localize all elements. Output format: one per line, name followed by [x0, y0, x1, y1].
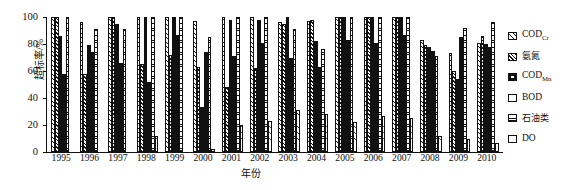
legend-label: DO: [522, 134, 536, 144]
legend-item: CODCr: [508, 26, 573, 47]
bar-chart: 超标率/% 020406080100 199519961997199819992…: [0, 0, 573, 190]
codcr-swatch: [508, 32, 517, 40]
y-axis-ticks: 020406080100: [0, 0, 46, 190]
y-tick-label: 80: [12, 39, 38, 50]
bar: [66, 17, 70, 152]
y-tick-label: 20: [12, 120, 38, 131]
x-tick-label: 1997: [104, 153, 132, 164]
bar-group: [474, 17, 502, 152]
x-axis-ticks: 1995199619971998199920002001200220032004…: [46, 153, 502, 164]
bar: [491, 22, 495, 152]
bar-group: [247, 17, 275, 152]
do-swatch: [508, 135, 517, 143]
bar-group: [389, 17, 417, 152]
bar: [382, 116, 386, 152]
bar-groups: [47, 17, 503, 152]
x-tick-label: 2002: [246, 153, 274, 164]
legend-item: BOD: [508, 88, 573, 109]
bar-group: [303, 17, 331, 152]
bar: [155, 136, 159, 152]
legend-label-main: COD: [522, 70, 542, 80]
legend-label: 氨氮: [522, 52, 540, 61]
legend-item: DO: [508, 129, 573, 150]
x-tick-label: 2000: [189, 153, 217, 164]
legend-item: CODMn: [508, 67, 573, 88]
bar: [179, 17, 183, 152]
bar: [240, 125, 244, 152]
x-tick-label: 1995: [47, 153, 75, 164]
x-tick-label: 2005: [331, 153, 359, 164]
bar: [438, 136, 442, 152]
x-tick-label: 2001: [217, 153, 245, 164]
bar-group: [133, 17, 161, 152]
bar: [495, 143, 499, 152]
x-tick-label: 2009: [444, 153, 472, 164]
codmn-swatch: [508, 73, 517, 81]
y-tick-label: 60: [12, 66, 38, 77]
bod-swatch: [508, 94, 517, 102]
bar: [353, 122, 357, 152]
legend-label-sub: Mn: [542, 75, 551, 82]
bar-group: [417, 17, 445, 152]
bar-group: [275, 17, 303, 152]
bar-group: [218, 17, 246, 152]
bar-group: [332, 17, 360, 152]
x-tick-label: 1996: [75, 153, 103, 164]
bar-group: [105, 17, 133, 152]
bar: [467, 139, 471, 153]
x-tick-label: 2006: [359, 153, 387, 164]
legend: CODCr氨氮CODMnBOD石油类DO: [508, 26, 573, 149]
x-tick-label: 2007: [388, 153, 416, 164]
legend-label: BOD: [522, 93, 542, 103]
bar-group: [190, 17, 218, 152]
bar: [325, 114, 329, 152]
bar-group: [76, 17, 104, 152]
bar: [268, 121, 272, 152]
bar-group: [162, 17, 190, 152]
x-tick-label: 1998: [132, 153, 160, 164]
bar: [151, 17, 155, 152]
legend-item: 氨氮: [508, 47, 573, 68]
legend-item: 石油类: [508, 108, 573, 129]
bar-group: [360, 17, 388, 152]
bar: [94, 29, 98, 152]
bar-group: [445, 17, 473, 152]
y-tick-label: 40: [12, 93, 38, 104]
y-tick-label: 0: [12, 147, 38, 158]
legend-label: CODMn: [522, 71, 552, 83]
bar: [208, 37, 212, 152]
bar-group: [48, 17, 76, 152]
x-tick-label: 2003: [274, 153, 302, 164]
ammonia-swatch: [508, 53, 517, 61]
legend-label-main: COD: [522, 29, 542, 39]
oil-swatch: [508, 114, 517, 122]
legend-label-main: BOD: [522, 92, 542, 102]
plot-area: [46, 17, 503, 153]
bar: [123, 29, 127, 152]
legend-label-main: DO: [522, 133, 536, 143]
x-tick-label: 1999: [161, 153, 189, 164]
bar: [410, 118, 414, 152]
y-tick-label: 100: [12, 12, 38, 23]
legend-label: CODCr: [522, 30, 549, 42]
x-tick-label: 2010: [473, 153, 501, 164]
legend-label: 石油类: [522, 114, 549, 123]
legend-label-main: 石油类: [522, 113, 549, 123]
bar: [296, 110, 300, 152]
legend-label-main: 氨氮: [522, 51, 540, 61]
legend-label-sub: Cr: [542, 34, 549, 41]
bar: [463, 28, 467, 152]
x-axis-title: 年份: [0, 165, 502, 180]
x-tick-label: 2008: [416, 153, 444, 164]
x-tick-label: 2004: [302, 153, 330, 164]
